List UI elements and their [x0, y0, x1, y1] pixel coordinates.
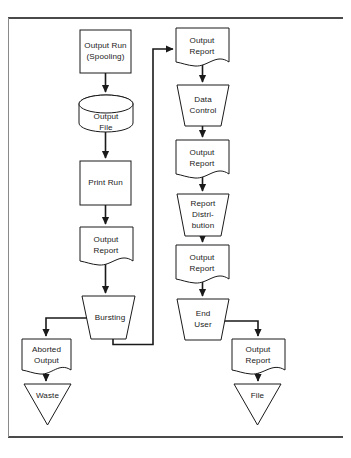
node-waste-label: Waste	[36, 391, 60, 400]
edge-bursting-to-aborted-output	[46, 318, 92, 336]
node-report-distribution-label-line3: bution	[192, 221, 215, 230]
node-print-run-label: Print Run	[88, 178, 123, 187]
node-output-report-4-label-line2: Report	[246, 356, 272, 365]
node-report-distribution-label-line2: Distri-	[192, 210, 214, 219]
node-report-distribution-label-line1: Report	[191, 199, 217, 208]
node-output-report-2-label-line1: Output	[190, 148, 216, 157]
node-output-report-1-label-line1: Output	[94, 235, 120, 244]
node-file-label: File	[251, 391, 265, 400]
node-aborted-output-label-line1: Aborted	[32, 345, 61, 354]
page-frame	[8, 18, 343, 437]
node-output-run[interactable]: Output Run (Spooling)	[80, 30, 131, 73]
node-output-report-3-label-line1: Output	[190, 253, 216, 262]
node-output-file[interactable]: Output File	[79, 95, 133, 132]
node-output-report-4-label-line1: Output	[246, 345, 272, 354]
node-print-run[interactable]: Print Run	[80, 161, 131, 205]
node-output-report-1-label-line2: Report	[94, 246, 120, 255]
node-end-user-label-line2: User	[194, 320, 212, 329]
node-end-user-label-line1: End	[196, 309, 211, 318]
flowchart-page: Output Run (Spooling) Output File Print …	[0, 0, 351, 458]
node-output-report-top-label-line1: Output	[190, 36, 216, 45]
node-output-report-3-label-line2: Report	[190, 264, 216, 273]
node-output-report-top[interactable]: Output Report	[176, 28, 229, 66]
node-data-control[interactable]: Data Control	[177, 85, 229, 126]
node-file[interactable]: File	[234, 384, 281, 425]
node-output-run-label-line1: Output Run	[84, 41, 126, 50]
node-output-report-3[interactable]: Output Report	[176, 245, 229, 283]
node-waste[interactable]: Waste	[24, 384, 71, 425]
node-bursting-label: Bursting	[95, 313, 126, 322]
node-output-report-2[interactable]: Output Report	[176, 140, 229, 178]
node-report-distribution[interactable]: Report Distri- bution	[177, 194, 229, 236]
node-output-file-label-line2: File	[99, 123, 113, 132]
node-end-user[interactable]: End User	[177, 299, 229, 340]
node-bursting[interactable]: Bursting	[82, 296, 135, 339]
node-output-report-1[interactable]: Output Report	[80, 227, 133, 265]
node-output-report-2-label-line2: Report	[190, 159, 216, 168]
node-data-control-label-line2: Control	[190, 106, 217, 115]
node-output-run-label-line2: (Spooling)	[87, 52, 125, 61]
node-data-control-label-line1: Data	[194, 95, 212, 104]
node-output-report-4[interactable]: Output Report	[232, 339, 285, 374]
node-aborted-output-label-line2: Output	[34, 356, 60, 365]
node-output-file-label-line1: Output	[94, 112, 120, 121]
flowchart-canvas: Output Run (Spooling) Output File Print …	[0, 0, 351, 458]
node-aborted-output[interactable]: Aborted Output	[22, 339, 71, 374]
node-output-report-top-label-line2: Report	[190, 47, 216, 56]
